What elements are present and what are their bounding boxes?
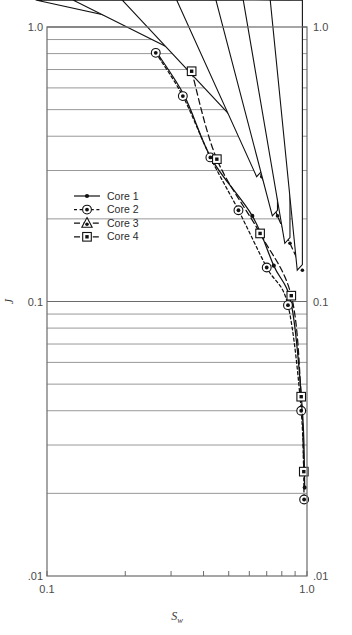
y-axis-left-label-top: 1.0 xyxy=(28,21,43,33)
x-axis-label-left: 0.1 xyxy=(39,583,54,595)
x-axis-title: Sw xyxy=(171,609,183,625)
marker-inner-square xyxy=(190,70,193,73)
marker-inner-dot xyxy=(286,303,290,307)
legend-item-4: Core 4 xyxy=(74,230,139,242)
marker-inner-dot xyxy=(237,208,241,212)
legend-label: Core 3 xyxy=(107,217,139,229)
marker-filled-dot xyxy=(272,264,276,268)
marker-inner-dot xyxy=(302,498,306,502)
marker-inner-square xyxy=(300,395,303,398)
y-axis-title: J xyxy=(2,298,16,304)
marker-inner-dot xyxy=(208,155,212,159)
marker-inner-square xyxy=(258,232,261,235)
chart-figure: 1.00.1.011.00.1.010.11.0JSwCore 1Core 2C… xyxy=(0,0,352,635)
marker-inner-dot xyxy=(301,268,305,272)
y-axis-left-label-bottom: .01 xyxy=(28,570,43,582)
x-axis-label-right: 1.0 xyxy=(299,583,314,595)
marker-inner-dot xyxy=(265,266,269,270)
marker-inner-dot xyxy=(154,51,158,55)
legend-label: Core 2 xyxy=(107,203,139,215)
semilog-capillary-pressure-chart: 1.00.1.011.00.1.010.11.0JSwCore 1Core 2C… xyxy=(0,0,352,635)
legend-label: Core 4 xyxy=(107,230,139,242)
marker-inner-dot xyxy=(85,208,89,212)
y-axis-left-label-mid: 0.1 xyxy=(28,296,43,308)
marker-inner-dot xyxy=(85,222,89,226)
marker-filled-dot xyxy=(250,214,254,218)
marker-inner-square xyxy=(290,294,293,297)
x-axis-title-subscript: w xyxy=(177,615,183,625)
marker-filled-dot xyxy=(303,485,307,489)
marker-inner-dot xyxy=(288,241,292,245)
y-axis-right-label-mid: 0.1 xyxy=(313,296,328,308)
y-axis-right-label-top: 1.0 xyxy=(313,21,328,33)
marker-inner-square xyxy=(215,157,218,160)
marker-inner-dot xyxy=(276,214,280,218)
y-axis-right-label-bottom: .01 xyxy=(313,570,328,582)
marker-filled-dot xyxy=(85,194,89,198)
marker-inner-square xyxy=(85,235,88,238)
marker-inner-dot xyxy=(181,94,185,98)
marker-inner-square xyxy=(302,470,305,473)
legend-label: Core 1 xyxy=(107,190,139,202)
